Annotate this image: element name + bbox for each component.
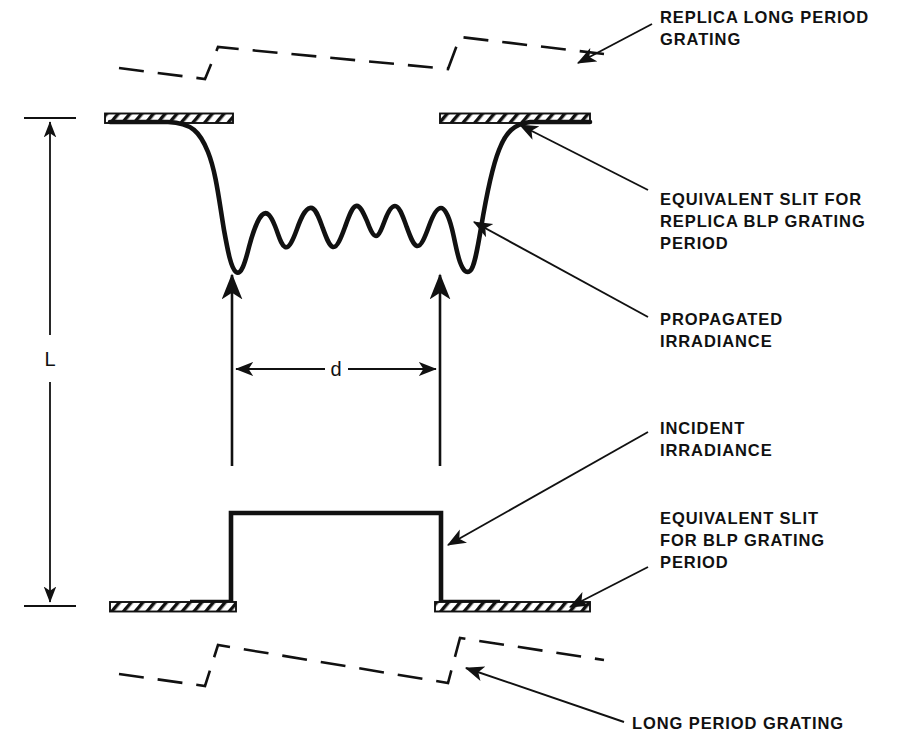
label-replica-long-period-grating: REPLICA LONG PERIOD GRATING	[660, 8, 869, 48]
label-propagated-irradiance-line1: PROPAGATED	[660, 310, 783, 328]
diagram-canvas: d L	[0, 0, 922, 746]
label-replica-long-period-grating-line2: GRATING	[660, 30, 741, 48]
propagation-distance-label-L: L	[44, 348, 55, 370]
leader-equivalent-slit-replica	[520, 125, 648, 190]
replica-long-period-grating-dashed-profile	[119, 37, 604, 79]
leader-long-period-grating	[466, 668, 624, 722]
propagated-irradiance-curve	[110, 122, 590, 273]
label-propagated-irradiance: PROPAGATED IRRADIANCE	[660, 310, 783, 350]
label-equivalent-slit-blp-line3: PERIOD	[660, 553, 729, 571]
label-replica-long-period-grating-line1: REPLICA LONG PERIOD	[660, 8, 869, 26]
label-long-period-grating-line1: LONG PERIOD GRATING	[632, 714, 844, 732]
long-period-grating-dashed-profile	[119, 638, 604, 686]
label-long-period-grating: LONG PERIOD GRATING	[632, 714, 844, 732]
label-equivalent-slit-replica-line2: REPLICA BLP GRATING	[660, 212, 866, 230]
label-equivalent-slit-replica-line3: PERIOD	[660, 234, 729, 252]
label-equivalent-slit-blp: EQUIVALENT SLIT FOR BLP GRATING PERIOD	[660, 509, 825, 571]
propagation-distance-dimension-L: L	[24, 118, 76, 606]
label-equivalent-slit-replica: EQUIVALENT SLIT FOR REPLICA BLP GRATING …	[660, 190, 866, 252]
blp-slit-bar-left	[110, 602, 236, 612]
incident-irradiance-curve	[190, 513, 500, 602]
leader-propagated-irradiance	[474, 222, 648, 317]
leader-equivalent-slit-blp	[570, 567, 648, 607]
label-equivalent-slit-blp-line1: EQUIVALENT SLIT	[660, 509, 819, 527]
label-equivalent-slit-blp-line2: FOR BLP GRATING	[660, 531, 825, 549]
slit-width-label-d: d	[330, 358, 341, 380]
figure-root: d L	[0, 0, 922, 746]
label-propagated-irradiance-line2: IRRADIANCE	[660, 332, 773, 350]
leader-replica-long-period-grating	[578, 24, 652, 63]
label-incident-irradiance-line2: IRRADIANCE	[660, 441, 773, 459]
slit-width-dimension-d: d	[236, 358, 436, 380]
label-equivalent-slit-replica-line1: EQUIVALENT SLIT FOR	[660, 190, 862, 208]
label-incident-irradiance-line1: INCIDENT	[660, 419, 745, 437]
label-incident-irradiance: INCIDENT IRRADIANCE	[660, 419, 773, 459]
blp-slit-bar-right	[435, 602, 590, 612]
leader-incident-irradiance	[448, 432, 648, 545]
